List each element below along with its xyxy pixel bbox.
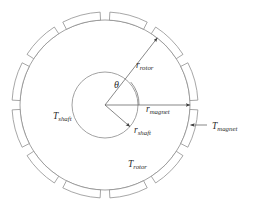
r-rotor-label-sub: rotor [140, 64, 154, 71]
t-rotor-label: Trotor [128, 159, 147, 170]
t-magnet-label: Tmagnet [212, 121, 238, 132]
magnet-segment [12, 109, 29, 147]
rotor-cross-section-diagram: θ rrotor rmagnet rshaft Tshaft Trotor Tm… [0, 0, 259, 209]
r-rotor-dimension-line [105, 38, 157, 105]
magnet-segment [151, 151, 183, 183]
magnet-segment [27, 27, 59, 59]
r-magnet-label-sub: magnet [150, 108, 171, 115]
r-shaft-label-sub: shaft [138, 129, 152, 136]
magnet-segment [63, 181, 101, 198]
magnet-segment [109, 12, 147, 29]
magnet-segment [109, 181, 147, 198]
labels-group: θ rrotor rmagnet rshaft Tshaft Trotor Tm… [53, 60, 238, 170]
magnet-segment [181, 109, 198, 147]
magnet-segment [151, 27, 183, 59]
r-rotor-label: rrotor [136, 60, 154, 71]
t-shaft-label: Tshaft [53, 111, 73, 122]
magnet-segment [63, 12, 101, 29]
r-shaft-label: rshaft [134, 125, 152, 136]
r-magnet-label: rmagnet [146, 104, 171, 115]
t-rotor-label-sub: rotor [133, 163, 147, 170]
magnet-segment [181, 63, 198, 101]
r-shaft-dimension-line [105, 105, 130, 127]
theta-label: θ [114, 79, 119, 90]
t-magnet-label-sub: magnet [217, 125, 238, 132]
magnet-segment [12, 63, 29, 101]
diagram-canvas: θ rrotor rmagnet rshaft Tshaft Trotor Tm… [0, 0, 259, 209]
magnet-segment [27, 151, 59, 183]
t-shaft-label-sub: shaft [58, 115, 72, 122]
